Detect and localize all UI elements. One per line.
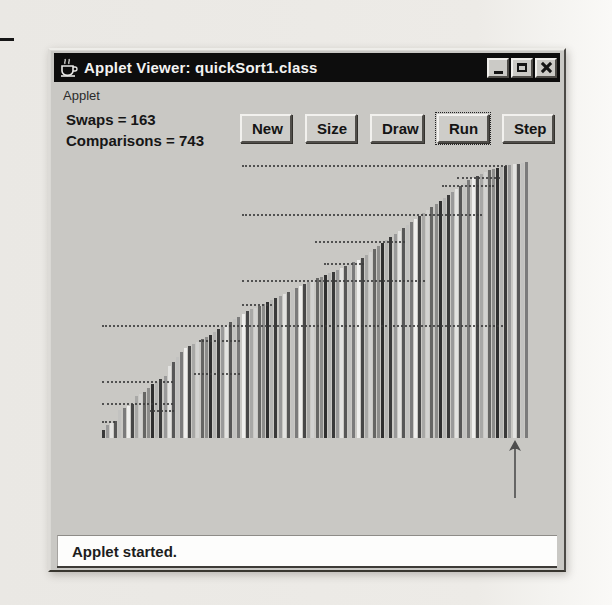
close-button[interactable] — [535, 58, 557, 78]
sort-bar — [283, 294, 286, 438]
sort-bar — [287, 292, 290, 438]
sort-bar — [332, 272, 335, 438]
sort-bar — [180, 352, 183, 438]
sort-bar — [508, 165, 511, 438]
new-button[interactable]: New — [240, 114, 292, 143]
sort-bar — [303, 284, 306, 438]
sort-bar — [484, 172, 487, 438]
pivot-dotted-line — [102, 381, 173, 383]
sort-bar — [410, 222, 413, 438]
step-button[interactable]: Step — [502, 114, 554, 143]
sort-bar — [270, 300, 273, 438]
sort-bar — [525, 162, 528, 438]
sort-bar — [513, 164, 516, 438]
sort-bar — [118, 410, 121, 438]
sort-bar — [233, 319, 236, 438]
sort-bar — [361, 258, 364, 438]
sort-bar — [340, 268, 343, 438]
draw-button[interactable]: Draw — [370, 114, 424, 143]
pivot-dotted-line — [150, 410, 174, 412]
sort-bar — [406, 225, 409, 438]
sort-bar — [106, 425, 109, 438]
sort-bar — [131, 404, 134, 438]
sort-bar — [295, 288, 298, 438]
pivot-dotted-line — [324, 263, 364, 265]
sort-bar — [127, 406, 130, 438]
pivot-dotted-line — [315, 241, 405, 243]
sort-bar — [274, 298, 277, 438]
sort-bar — [426, 210, 429, 438]
title-bar[interactable]: Applet Viewer: quickSort1.class — [54, 53, 560, 82]
minimize-icon — [494, 71, 503, 74]
pivot-dotted-line — [242, 165, 507, 167]
sort-bar — [246, 311, 249, 438]
menu-applet[interactable]: Applet — [54, 86, 109, 105]
maximize-icon — [517, 63, 527, 72]
sort-bar — [110, 423, 113, 438]
sort-chart — [102, 157, 529, 438]
applet-viewer-window: Applet Viewer: quickSort1.class Applet S… — [48, 48, 566, 572]
pivot-dotted-line — [242, 304, 276, 306]
pivot-dotted-line — [442, 185, 494, 187]
sort-bar — [517, 164, 520, 438]
maximize-button[interactable] — [511, 58, 533, 78]
sort-bar — [147, 388, 150, 438]
sort-bar — [311, 280, 314, 438]
sort-bar — [377, 246, 380, 438]
pivot-dotted-line — [102, 403, 173, 405]
sort-bar — [242, 314, 245, 438]
size-button[interactable]: Size — [305, 114, 357, 143]
sort-bar — [279, 296, 282, 438]
sort-bar — [459, 186, 462, 438]
sort-bar — [316, 278, 319, 438]
sort-bar — [398, 231, 401, 438]
sort-bar — [348, 264, 351, 438]
sort-bar — [254, 308, 257, 438]
minimize-button[interactable] — [487, 58, 509, 78]
sort-bar — [291, 290, 294, 438]
sort-bar — [418, 216, 421, 438]
sort-bar — [196, 342, 199, 438]
sort-bar — [237, 317, 240, 438]
sort-bar — [463, 183, 466, 438]
status-bar: Applet started. — [57, 535, 557, 566]
sort-bar — [352, 262, 355, 438]
pivot-dotted-line — [242, 280, 425, 282]
sort-bar — [381, 243, 384, 438]
sort-bar — [324, 275, 327, 438]
sort-bar — [344, 266, 347, 438]
sort-bar — [172, 362, 175, 438]
sort-bar — [205, 337, 208, 438]
sort-bar — [209, 335, 212, 438]
status-text: Applet started. — [72, 543, 177, 560]
sort-bar — [188, 346, 191, 438]
sort-bar — [164, 376, 167, 438]
sort-bar — [435, 204, 438, 438]
sort-bar — [328, 273, 331, 438]
sort-bar — [521, 163, 524, 438]
run-button[interactable]: Run — [437, 114, 489, 143]
sort-bar — [402, 228, 405, 438]
pivot-dotted-line — [242, 214, 482, 216]
sort-bar — [430, 207, 433, 438]
sort-bar — [139, 394, 142, 438]
sort-bar — [451, 192, 454, 438]
stats-block: Swaps = 163 Comparisons = 743 — [66, 109, 204, 151]
sort-bar — [320, 277, 323, 438]
sort-bar — [250, 309, 253, 438]
sort-bar — [266, 302, 269, 438]
sort-bar — [221, 327, 224, 438]
sort-bar — [472, 178, 475, 438]
sort-bar — [123, 408, 126, 438]
sort-bar — [159, 379, 162, 438]
sort-bar — [143, 392, 146, 438]
sort-bar — [102, 430, 105, 438]
java-cup-icon — [58, 57, 79, 78]
sort-bar — [192, 344, 195, 438]
sort-bar — [307, 282, 310, 438]
sort-bar — [357, 260, 360, 438]
pivot-dotted-line — [102, 421, 115, 423]
page-margin-rule — [0, 38, 14, 41]
menu-bar: Applet — [54, 84, 560, 107]
sort-bar — [443, 198, 446, 438]
